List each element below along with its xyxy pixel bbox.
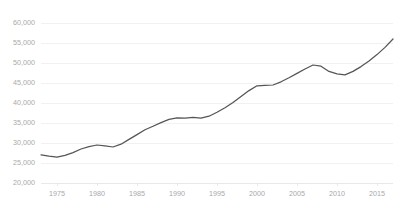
- y-axis-tick-label: 55,000: [13, 38, 35, 47]
- y-axis-tick-label: 30,000: [13, 138, 35, 147]
- y-axis-tick-label: 20,000: [13, 178, 35, 187]
- data-line-1: [41, 39, 393, 157]
- x-axis-tick-label: 1995: [209, 189, 225, 198]
- y-axis-tick-label: 40,000: [13, 98, 35, 107]
- x-axis-tick-label: 1980: [89, 189, 105, 198]
- x-axis-tick-label: 1990: [169, 189, 185, 198]
- y-axis-tick-label: 60,000: [13, 18, 35, 27]
- y-axis-tick-label: 25,000: [13, 158, 35, 167]
- x-axis-tick-label: 2005: [289, 189, 305, 198]
- y-axis-tick-labels: 20,00025,00030,00035,00040,00045,00050,0…: [13, 18, 35, 187]
- y-axis-tick-label: 35,000: [13, 118, 35, 127]
- y-axis-tick-label: 45,000: [13, 78, 35, 87]
- line-chart: 20,00025,00030,00035,00040,00045,00050,0…: [0, 0, 406, 211]
- x-axis-tick-label: 2010: [329, 189, 345, 198]
- x-axis-tick-label: 2015: [369, 189, 385, 198]
- x-axis-tick-label: 1985: [129, 189, 145, 198]
- y-axis-tick-label: 50,000: [13, 58, 35, 67]
- gridlines: [41, 23, 393, 186]
- x-axis-tick-label: 1975: [49, 189, 65, 198]
- x-axis-tick-label: 2000: [249, 189, 265, 198]
- data-series-group: [41, 39, 393, 157]
- x-axis-tick-labels: 197519801985199019952000200520102015: [49, 189, 385, 198]
- chart-plot-area: 20,00025,00030,00035,00040,00045,00050,0…: [0, 0, 406, 211]
